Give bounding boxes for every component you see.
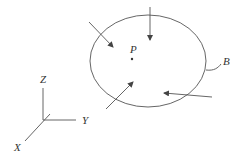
body-B-label: B <box>223 55 230 67</box>
force-arrow-top-left <box>89 22 113 47</box>
x-axis-label: X <box>13 141 22 153</box>
free-body-diagram: B P Z Y X <box>0 0 241 161</box>
point-P-label: P <box>129 43 137 55</box>
body-B-outline <box>90 15 206 107</box>
body-B-leader-line <box>206 64 221 70</box>
coordinate-axes: Z Y X <box>13 73 90 153</box>
z-axis-label: Z <box>40 73 47 85</box>
y-axis-label: Y <box>82 114 90 126</box>
force-arrow-bottom-right <box>164 93 212 97</box>
x-axis <box>25 114 50 141</box>
point-P-dot <box>131 58 133 60</box>
